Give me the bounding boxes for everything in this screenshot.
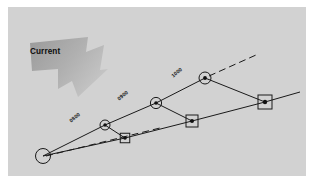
square-marker-1000 xyxy=(258,95,272,109)
square-marker-0900 xyxy=(186,115,198,127)
diagram-canvas xyxy=(8,7,306,176)
circle-marker-0900 xyxy=(150,97,161,108)
current-arrow xyxy=(30,37,108,97)
extension-dashed-ray xyxy=(209,55,256,76)
diagram-panel: Current 0800 0900 1000 xyxy=(8,7,306,176)
figure-root: Current 0800 0900 1000 xyxy=(0,0,314,183)
circle-marker-0800 xyxy=(100,120,110,130)
lower-track xyxy=(43,92,300,156)
connector-1000 xyxy=(205,78,265,102)
connector-0800 xyxy=(105,125,125,138)
current-label: Current xyxy=(30,47,60,56)
square-marker-0800 xyxy=(120,133,130,143)
origin-dashed-ray xyxy=(46,128,160,156)
circle-marker-1000 xyxy=(199,72,211,84)
